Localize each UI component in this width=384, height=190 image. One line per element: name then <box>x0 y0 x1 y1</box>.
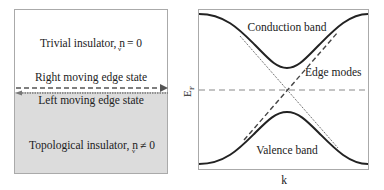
topological-insulator-diagram: Trivial insulator, n ν = 0 Right moving … <box>0 0 384 190</box>
svg-text:E: E <box>181 90 193 97</box>
trivial-relation: = 0 <box>127 37 142 49</box>
svg-text:F: F <box>188 86 196 90</box>
left-panel: Trivial insulator, n ν = 0 Right moving … <box>14 9 168 174</box>
conduction-band-label: Conduction band <box>248 21 327 33</box>
right-edge-state-label: Right moving edge state <box>35 71 147 84</box>
topological-insulator-label: Topological insulator, n <box>29 139 138 152</box>
trivial-insulator-label: Trivial insulator, n <box>40 37 125 50</box>
edge-modes-label: Edge modes <box>305 66 362 79</box>
valence-band-label: Valence band <box>256 144 318 156</box>
trivial-subscript: ν <box>118 45 121 53</box>
right-panel: Conduction band Edge modes Valence band … <box>181 10 369 187</box>
x-axis-label: k <box>281 174 287 186</box>
y-axis-label: E F <box>181 86 196 97</box>
topological-subscript: ν <box>132 147 135 155</box>
topological-relation: ≠ 0 <box>140 139 155 151</box>
left-edge-state-label: Left moving edge state <box>38 94 144 107</box>
